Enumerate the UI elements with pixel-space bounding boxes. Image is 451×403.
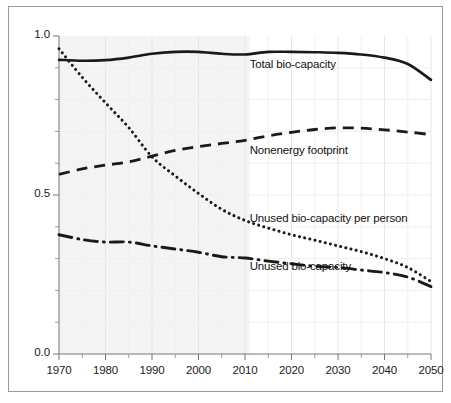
figure-container: 1.00.50.0 197019801990200020102020203020…	[0, 0, 451, 403]
y-tick-label: 1.0	[9, 28, 50, 40]
x-tick-label: 2020	[267, 364, 317, 376]
series-annotation-2: Unused bio-capacity per person	[250, 212, 408, 224]
x-tick-label: 2010	[220, 364, 270, 376]
chart-plot-area	[9, 7, 442, 391]
x-tick-label: 2000	[174, 364, 224, 376]
x-tick-label: 1990	[127, 364, 177, 376]
y-tick-label: 0.0	[9, 346, 50, 358]
chart-frame: 1.00.50.0 197019801990200020102020203020…	[8, 6, 443, 392]
series-annotation-1: Nonenergy footprint	[250, 144, 348, 156]
x-tick-label: 2030	[313, 364, 363, 376]
x-tick-label: 1970	[34, 364, 84, 376]
x-tick-label: 2040	[360, 364, 410, 376]
series-annotation-0: Total bio-capacity	[250, 58, 336, 70]
x-tick-label: 2050	[406, 364, 451, 376]
y-tick-label: 0.5	[9, 187, 50, 199]
x-tick-label: 1980	[81, 364, 131, 376]
series-annotation-3: Unused bio-capacity	[250, 260, 351, 272]
